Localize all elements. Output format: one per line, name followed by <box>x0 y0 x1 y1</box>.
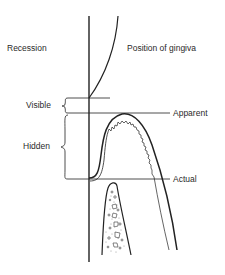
bone-pore <box>119 223 121 225</box>
bone-pore <box>108 214 110 216</box>
gingiva-outer-contour <box>89 114 177 250</box>
visible-label: Visible <box>26 100 51 110</box>
bone-pore <box>113 243 118 247</box>
gingival-recession-diagram: Recession Position of gingiva Visible Hi… <box>0 0 225 275</box>
apparent-label: Apparent <box>173 108 208 118</box>
gingiva-position-heading: Position of gingiva <box>127 43 196 53</box>
hidden-label: Hidden <box>23 141 50 151</box>
hidden-brace <box>61 115 68 179</box>
bone-pore <box>111 191 113 193</box>
bone-pore <box>114 222 118 227</box>
bone-pore <box>114 196 116 198</box>
bone-pore <box>117 209 119 211</box>
gingiva-inner-contour <box>90 132 108 181</box>
bone-pore <box>109 199 111 201</box>
recession-heading: Recession <box>7 43 47 53</box>
bone-pore <box>109 227 111 229</box>
bone-pore <box>107 246 109 248</box>
visible-brace <box>62 98 68 113</box>
actual-label: Actual <box>173 174 197 184</box>
bone-pore <box>112 204 117 209</box>
bone-outline <box>102 183 131 255</box>
bone-pore <box>115 232 120 238</box>
bone-pore <box>119 247 121 249</box>
crown-curve <box>89 16 118 98</box>
bone-pore <box>112 213 117 218</box>
bone-pore <box>121 239 123 241</box>
alveolar-bone <box>102 183 131 255</box>
bone-pore <box>108 237 110 239</box>
